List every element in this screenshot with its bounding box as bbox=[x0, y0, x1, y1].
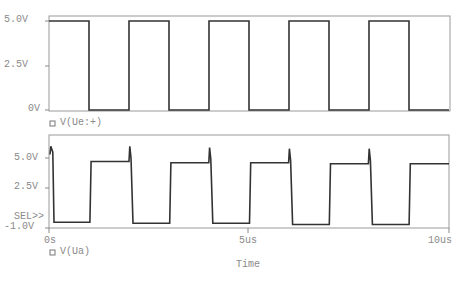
legend-label-v-ue: V(Ue:+) bbox=[60, 117, 102, 128]
xtick-10us: 10us bbox=[428, 235, 452, 246]
chart-canvas bbox=[0, 0, 460, 281]
xtick-5us: 5us bbox=[239, 235, 257, 246]
bottom-ytick-neg1v: -1.0V bbox=[4, 221, 34, 232]
top-ytick-5v: 5.0V bbox=[4, 14, 28, 25]
legend-label-v-ua: V(Ua) bbox=[60, 246, 90, 257]
trace-v-ue bbox=[49, 21, 449, 110]
bottom-ytick-5v: 5.0V bbox=[14, 152, 38, 163]
bottom-ytick-2-5v: 2.5V bbox=[14, 181, 38, 192]
top-ytick-2-5v: 2.5V bbox=[4, 59, 28, 70]
trace-v-ua bbox=[50, 146, 449, 224]
legend-marker-square bbox=[50, 250, 55, 255]
top-ytick-0v: 0V bbox=[28, 103, 40, 114]
x-axis-title: Time bbox=[236, 259, 260, 270]
xtick-0s: 0s bbox=[44, 235, 56, 246]
legend-marker-square bbox=[50, 121, 55, 126]
top-plot bbox=[45, 16, 450, 126]
